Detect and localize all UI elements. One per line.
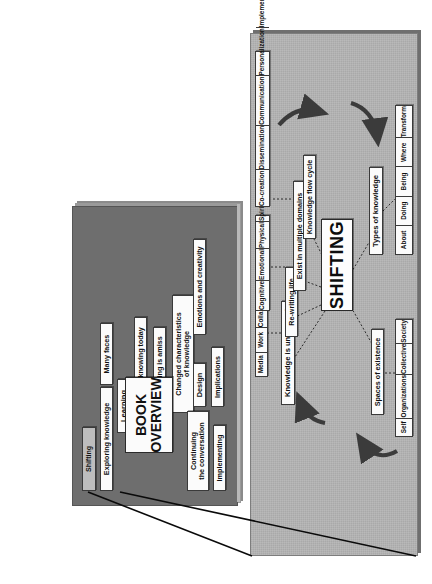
figure-canvas: Shifting Exploring knowledge Many faces … [0, 0, 432, 584]
zoom-callout-lines [0, 0, 432, 584]
callout-line-top [88, 492, 252, 556]
figure-root: Shifting Exploring knowledge Many faces … [0, 0, 432, 584]
callout-line-bottom [120, 492, 416, 556]
